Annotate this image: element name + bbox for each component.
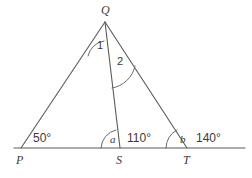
segment-PQ xyxy=(21,22,105,148)
geometry-diagram: Q P S T 1 2 a b 50° 110° 140° xyxy=(0,0,252,178)
angle-label-b: b xyxy=(180,133,186,145)
vertex-label-Q: Q xyxy=(101,3,110,17)
vertex-label-P: P xyxy=(15,153,24,167)
angle-measure-50: 50° xyxy=(33,131,51,145)
geometry-canvas: Q P S T 1 2 a b 50° 110° 140° xyxy=(0,0,252,178)
angle-arc-b xyxy=(166,130,177,148)
angle-label-1: 1 xyxy=(97,39,103,51)
angle-measure-110: 110° xyxy=(127,131,151,145)
vertex-label-T: T xyxy=(183,153,191,167)
vertex-label-S: S xyxy=(116,153,122,167)
angle-label-a: a xyxy=(110,133,116,145)
angle-arc-2 xyxy=(112,66,135,88)
angle-label-2: 2 xyxy=(117,55,123,67)
angle-measure-140: 140° xyxy=(196,131,221,145)
